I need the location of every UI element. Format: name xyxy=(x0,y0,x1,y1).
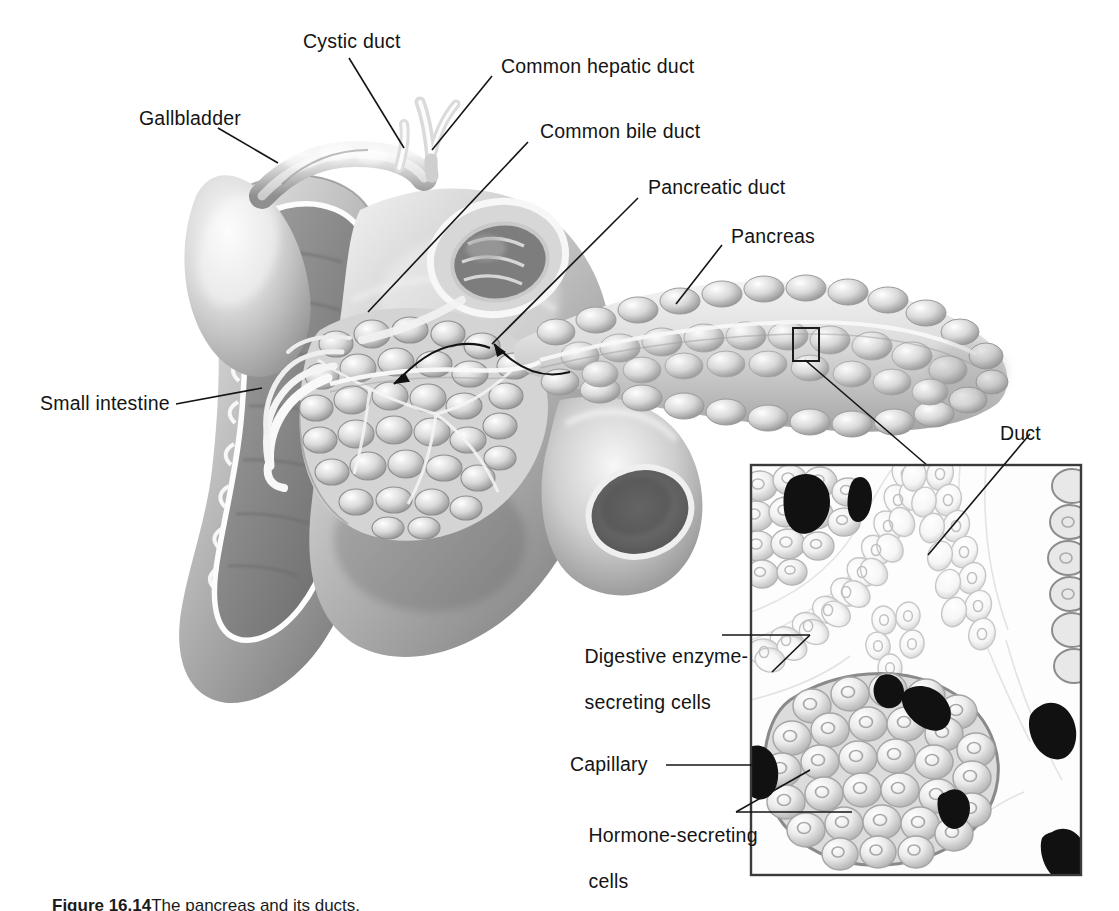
label-duct: Duct xyxy=(1000,422,1041,444)
hormone-cells-line-1: Hormone-secreting xyxy=(588,824,757,846)
label-cystic-duct: Cystic duct xyxy=(303,30,401,52)
figure-caption: Figure 16.14The pancreas and its ducts. xyxy=(52,896,360,911)
figure-caption-text: The pancreas and its ducts. xyxy=(151,896,360,911)
label-capillary: Capillary xyxy=(570,753,648,775)
label-pancreatic-duct: Pancreatic duct xyxy=(648,176,785,198)
label-common-hepatic-duct: Common hepatic duct xyxy=(501,55,694,77)
figure-caption-number: Figure 16.14 xyxy=(52,896,151,911)
digestive-enzyme-line-2: secreting cells xyxy=(584,691,711,713)
hormone-cells-line-2: cells xyxy=(588,870,628,892)
digestive-enzyme-line-1: Digestive enzyme- xyxy=(584,645,748,667)
label-common-bile-duct: Common bile duct xyxy=(540,120,700,142)
label-pancreas: Pancreas xyxy=(731,225,815,247)
label-hormone-secreting-cells: Hormone-secreting cells xyxy=(566,801,758,911)
label-gallbladder: Gallbladder xyxy=(139,107,241,129)
label-small-intestine: Small intestine xyxy=(40,392,170,414)
label-digestive-enzyme-secreting-cells: Digestive enzyme- secreting cells xyxy=(562,622,748,737)
figure-root: Cystic duct Gallbladder Common hepatic d… xyxy=(0,0,1119,911)
